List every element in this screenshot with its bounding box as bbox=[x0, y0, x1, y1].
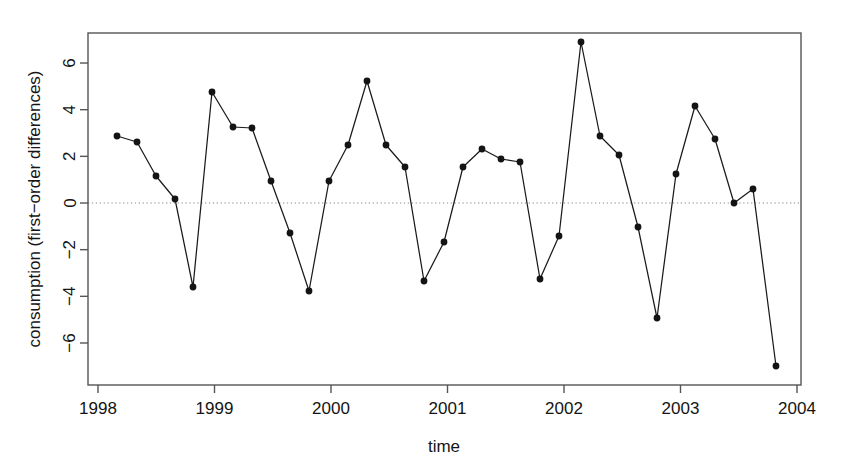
x-tick-label: 2001 bbox=[429, 399, 467, 418]
data-point-marker bbox=[537, 276, 544, 283]
y-tick-label: −4 bbox=[61, 287, 80, 306]
data-point-marker bbox=[597, 133, 604, 140]
data-point-marker bbox=[635, 224, 642, 231]
y-tick-label: 2 bbox=[61, 152, 80, 161]
data-point-marker bbox=[326, 178, 333, 185]
data-point-marker bbox=[712, 136, 719, 143]
y-tick-label: 6 bbox=[61, 58, 80, 67]
y-tick-label: 0 bbox=[61, 198, 80, 207]
data-point-marker bbox=[268, 178, 275, 185]
data-point-marker bbox=[750, 186, 757, 193]
data-point-marker bbox=[673, 171, 680, 178]
data-point-marker bbox=[731, 200, 738, 207]
y-tick-label: 4 bbox=[61, 105, 80, 114]
x-tick-label: 1999 bbox=[196, 399, 234, 418]
x-tick-label: 2000 bbox=[312, 399, 350, 418]
data-point-marker bbox=[345, 142, 352, 149]
data-point-marker bbox=[172, 196, 179, 203]
data-point-marker bbox=[616, 152, 623, 159]
data-point-marker bbox=[134, 139, 141, 146]
data-point-marker bbox=[190, 284, 197, 291]
data-point-marker bbox=[556, 233, 563, 240]
data-point-marker bbox=[773, 363, 780, 370]
data-point-marker bbox=[578, 39, 585, 46]
data-point-marker bbox=[209, 89, 216, 96]
x-tick-label: 1998 bbox=[79, 399, 117, 418]
y-axis-title: consumption (first−order differences) bbox=[25, 70, 44, 347]
data-point-marker bbox=[479, 146, 486, 153]
x-tick-label: 2002 bbox=[545, 399, 583, 418]
data-point-marker bbox=[517, 159, 524, 166]
data-point-marker bbox=[230, 124, 237, 131]
data-point-marker bbox=[402, 164, 409, 171]
x-axis-title: time bbox=[428, 437, 460, 456]
data-point-marker bbox=[364, 78, 371, 85]
data-point-marker bbox=[153, 173, 160, 180]
data-point-marker bbox=[441, 239, 448, 246]
figure-background bbox=[0, 0, 846, 468]
y-tick-label: −6 bbox=[61, 333, 80, 352]
data-point-marker bbox=[114, 133, 121, 140]
data-point-marker bbox=[654, 315, 661, 322]
data-point-marker bbox=[692, 103, 699, 110]
x-tick-label: 2004 bbox=[778, 399, 816, 418]
data-point-marker bbox=[460, 164, 467, 171]
data-point-marker bbox=[498, 156, 505, 163]
data-point-marker bbox=[249, 125, 256, 132]
y-tick-label: −2 bbox=[61, 240, 80, 259]
line-chart-svg: 1998199920002001200220032004 −6−4−20246 … bbox=[0, 0, 846, 468]
x-tick-label: 2003 bbox=[662, 399, 700, 418]
data-point-marker bbox=[306, 288, 313, 295]
data-point-marker bbox=[287, 230, 294, 237]
data-point-marker bbox=[421, 278, 428, 285]
chart-figure: 1998199920002001200220032004 −6−4−20246 … bbox=[0, 0, 846, 468]
data-point-marker bbox=[383, 142, 390, 149]
